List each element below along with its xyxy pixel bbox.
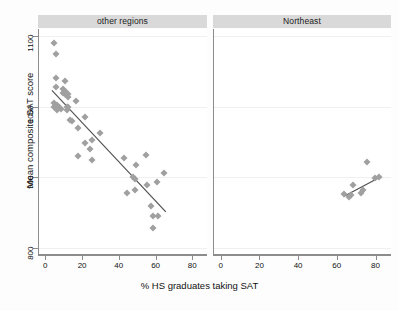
x-tick-20	[82, 256, 83, 260]
y-tick-label-800: 800	[26, 246, 35, 278]
plot-panel-northeast	[213, 29, 391, 255]
x-tick-label-60: 60	[151, 261, 160, 270]
x-tick-label-20: 20	[255, 261, 264, 270]
x-tick-0	[221, 256, 222, 260]
x-axis-line-left	[38, 255, 207, 256]
plot-area-left	[39, 29, 207, 254]
y-axis-line	[38, 29, 39, 255]
facet-header-label-left: other regions	[97, 17, 148, 26]
regression-line-northeast	[214, 29, 391, 254]
regression-line-other-regions	[39, 29, 207, 254]
y-axis-title: Mean composite SAT score	[24, 46, 35, 216]
x-tick-label-40: 40	[114, 261, 123, 270]
x-tick-label-80: 80	[188, 261, 197, 270]
x-tick-label-60: 60	[332, 261, 341, 270]
plot-area-right	[214, 29, 391, 254]
x-tick-label-40: 40	[294, 261, 303, 270]
x-tick-80	[376, 256, 377, 260]
x-axis-title: % HS graduates taking SAT	[0, 280, 399, 291]
plot-panel-other-regions	[38, 29, 207, 255]
x-tick-40	[119, 256, 120, 260]
x-tick-label-0: 0	[43, 261, 47, 270]
chart-figure: other regions Northeast 80090010001100 M…	[0, 0, 399, 311]
facet-header-other-regions: other regions	[38, 15, 207, 28]
x-tick-20	[259, 256, 260, 260]
x-tick-label-20: 20	[78, 261, 87, 270]
x-tick-0	[45, 256, 46, 260]
x-tick-60	[156, 256, 157, 260]
x-tick-40	[298, 256, 299, 260]
x-tick-label-80: 80	[371, 261, 380, 270]
x-tick-60	[337, 256, 338, 260]
facet-header-northeast: Northeast	[213, 15, 391, 28]
x-axis-line-right	[213, 255, 391, 256]
x-tick-label-0: 0	[218, 261, 222, 270]
facet-header-label-right: Northeast	[283, 17, 321, 26]
x-tick-80	[192, 256, 193, 260]
